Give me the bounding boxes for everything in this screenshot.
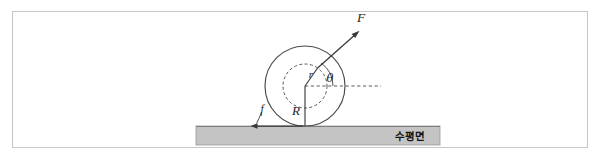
- figure-canvas: F θ r R f 수평면: [0, 0, 612, 160]
- angle-label: θ: [327, 71, 334, 85]
- inner-radius-label: r: [309, 68, 314, 80]
- physics-diagram: F θ r R f 수평면: [0, 0, 612, 160]
- surface-label: 수평면: [395, 130, 425, 142]
- force-label: F: [356, 10, 366, 25]
- outer-radius-label: R: [291, 103, 300, 118]
